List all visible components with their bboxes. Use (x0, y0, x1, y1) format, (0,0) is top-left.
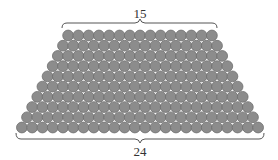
sphere (155, 112, 166, 123)
sphere (206, 30, 217, 41)
sphere (150, 40, 161, 51)
sphere (109, 61, 120, 72)
sphere (242, 122, 253, 133)
sphere (160, 102, 171, 113)
sphere (47, 102, 58, 113)
sphere (135, 112, 146, 123)
sphere (124, 112, 135, 123)
sphere (99, 40, 110, 51)
sphere (37, 122, 48, 133)
sphere (68, 61, 79, 72)
sphere (63, 112, 74, 123)
sphere (140, 102, 151, 113)
sphere (135, 30, 146, 41)
sphere (176, 91, 187, 102)
sphere (114, 91, 125, 102)
sphere (52, 51, 63, 62)
sphere (196, 71, 207, 82)
sphere (155, 51, 166, 62)
sphere (47, 122, 58, 133)
sphere (58, 102, 69, 113)
sphere (78, 61, 89, 72)
sphere (52, 112, 63, 123)
sphere (68, 81, 79, 92)
sphere (104, 30, 115, 41)
sphere (37, 102, 48, 113)
sphere (145, 112, 156, 123)
sphere (88, 40, 99, 51)
sphere (109, 122, 120, 133)
sphere (83, 51, 94, 62)
sphere (165, 71, 176, 82)
sphere (140, 81, 151, 92)
sphere (27, 102, 38, 113)
sphere (217, 71, 228, 82)
sphere (232, 102, 243, 113)
sphere (104, 51, 115, 62)
sphere (176, 51, 187, 62)
sphere (52, 91, 63, 102)
sphere (140, 61, 151, 72)
sphere (176, 112, 187, 123)
sphere (237, 91, 248, 102)
sphere (58, 61, 69, 72)
sphere (119, 81, 130, 92)
sphere (114, 51, 125, 62)
sphere (160, 40, 171, 51)
sphere (165, 112, 176, 123)
sphere (217, 91, 228, 102)
sphere (145, 51, 156, 62)
top-count-label: 15 (134, 6, 147, 21)
sphere (68, 102, 79, 113)
sphere (73, 51, 84, 62)
sphere (94, 51, 105, 62)
sphere (150, 61, 161, 72)
sphere (160, 61, 171, 72)
sphere (129, 40, 140, 51)
sphere (83, 91, 94, 102)
sphere (176, 30, 187, 41)
sphere (73, 91, 84, 102)
sphere (201, 122, 212, 133)
sphere (52, 71, 63, 82)
sphere (42, 112, 53, 123)
sphere (206, 91, 217, 102)
sphere (186, 91, 197, 102)
sphere (171, 122, 182, 133)
sphere (196, 91, 207, 102)
sphere (135, 71, 146, 82)
sphere (165, 30, 176, 41)
sphere (88, 81, 99, 92)
sphere (104, 71, 115, 82)
sphere (99, 81, 110, 92)
sphere (58, 122, 69, 133)
sphere (181, 40, 192, 51)
sphere (83, 71, 94, 82)
sphere (232, 81, 243, 92)
sphere (94, 91, 105, 102)
sphere (42, 91, 53, 102)
sphere (150, 81, 161, 92)
sphere (206, 112, 217, 123)
sphere (186, 71, 197, 82)
sphere (160, 122, 171, 133)
sphere (78, 81, 89, 92)
sphere (222, 122, 233, 133)
sphere (47, 61, 58, 72)
sphere (17, 122, 28, 133)
sphere (140, 40, 151, 51)
sphere (212, 122, 223, 133)
sphere (124, 71, 135, 82)
sphere (227, 71, 238, 82)
sphere (217, 51, 228, 62)
sphere (119, 122, 130, 133)
sphere (155, 71, 166, 82)
sphere (73, 71, 84, 82)
sphere (206, 51, 217, 62)
sphere (58, 40, 69, 51)
sphere (171, 61, 182, 72)
sphere (58, 81, 69, 92)
sphere (212, 61, 223, 72)
sphere (145, 71, 156, 82)
sphere (88, 122, 99, 133)
